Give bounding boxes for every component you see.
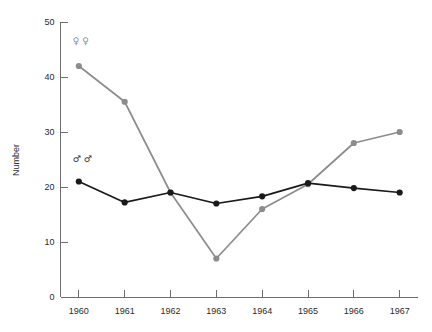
data-point-males	[259, 193, 265, 199]
x-tick-label: 1965	[298, 306, 318, 316]
x-tick-label: 1964	[252, 306, 272, 316]
data-point-females	[351, 140, 357, 146]
data-point-males	[397, 189, 403, 195]
y-tick-label: 20	[44, 182, 54, 192]
y-tick-label: 30	[44, 127, 54, 137]
y-tick-label: 40	[44, 72, 54, 82]
x-tick-label: 1967	[390, 306, 410, 316]
data-point-females	[76, 63, 82, 69]
x-axis-ticks: 19601961196219631964196519661967	[69, 290, 410, 316]
data-point-males	[351, 185, 357, 191]
data-point-females	[259, 206, 265, 212]
x-tick-label: 1962	[160, 306, 180, 316]
x-tick-label: 1961	[115, 306, 135, 316]
series-line-males	[79, 182, 400, 204]
x-tick-label: 1960	[69, 306, 89, 316]
y-tick-label: 50	[44, 17, 54, 27]
data-point-males	[167, 189, 173, 195]
data-point-females	[122, 99, 128, 105]
series-group	[76, 63, 403, 262]
y-tick-label: 0	[49, 292, 54, 302]
series-symbol-label-males: ♂ ♂	[73, 154, 92, 164]
x-tick-label: 1966	[344, 306, 364, 316]
x-axis: 19601961196219631964196519661967	[61, 290, 419, 316]
data-point-females	[213, 255, 219, 261]
y-tick-label: 10	[44, 237, 54, 247]
chart-canvas: 01020304050 Number 196019611962196319641…	[0, 0, 432, 332]
y-axis: 01020304050 Number	[11, 17, 68, 302]
data-point-females	[397, 129, 403, 135]
data-point-males	[213, 200, 219, 206]
data-point-males	[305, 180, 311, 186]
line-chart: 01020304050 Number 196019611962196319641…	[0, 0, 432, 332]
y-axis-ticks: 01020304050	[44, 17, 67, 302]
series-symbol-labels: ♀ ♀♂ ♂	[73, 36, 92, 164]
data-point-males	[76, 178, 82, 184]
series-line-females	[79, 66, 400, 259]
data-point-males	[122, 199, 128, 205]
x-tick-label: 1963	[206, 306, 226, 316]
y-axis-title: Number	[11, 144, 21, 176]
series-symbol-label-females: ♀ ♀	[73, 36, 89, 46]
